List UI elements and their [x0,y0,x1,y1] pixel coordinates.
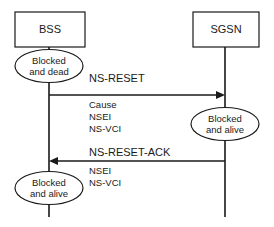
arrowhead-ns-reset-ack [49,157,58,165]
message-param-ns-reset-2: NS-VCI [89,123,121,134]
state-bss-blocked-and-alive[interactable]: Blocked and alive [15,172,83,205]
participant-bss[interactable]: BSS [15,12,85,47]
message-param-ns-reset-ack-0: NSEI [89,165,111,176]
state-bss-2-line1: Blocked [32,177,66,188]
message-param-ns-reset-ack-1: NS-VCI [89,177,121,188]
state-bss-blocked-and-dead[interactable]: Blocked and dead [15,50,83,83]
state-bss-2-line2: and alive [30,188,68,199]
state-sgsn-blocked-and-alive[interactable]: Blocked and alive [191,108,259,141]
message-label-ns-reset-ack: NS-RESET-ACK [89,146,171,158]
arrowhead-ns-reset [216,91,225,99]
state-bss-1-line2: and dead [29,66,69,77]
sequence-diagram-svg: BSS SGSN Blocked and dead NS-RESET Cause… [0,0,274,227]
message-param-ns-reset-1: NSEI [89,111,111,122]
participant-sgsn[interactable]: SGSN [193,12,259,47]
state-sgsn-1-line2: and alive [206,124,244,135]
state-bss-1-line1: Blocked [32,55,66,66]
message-param-ns-reset-0: Cause [89,99,116,110]
state-sgsn-1-line1: Blocked [208,113,242,124]
sequence-diagram-canvas: BSS SGSN Blocked and dead NS-RESET Cause… [0,0,274,227]
message-label-ns-reset: NS-RESET [89,72,145,84]
participant-label-bss: BSS [39,23,61,35]
participant-label-sgsn: SGSN [210,23,241,35]
